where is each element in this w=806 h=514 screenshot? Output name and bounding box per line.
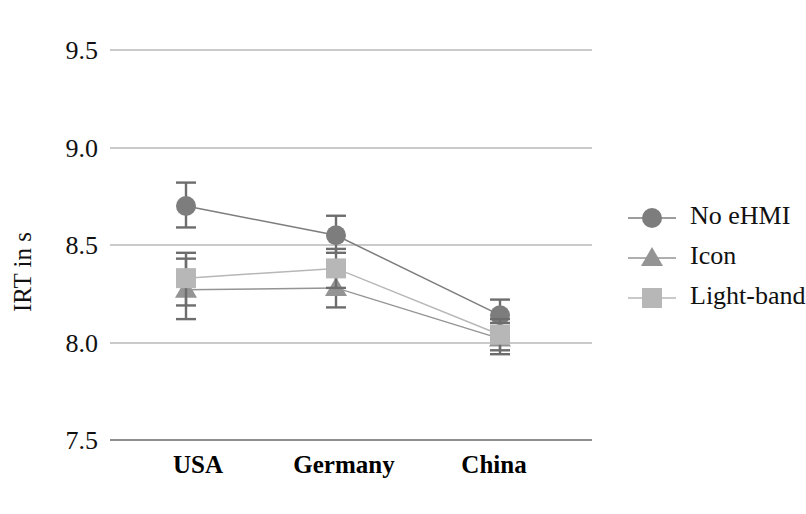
y-tick-label-9-5: 9.5 — [66, 36, 99, 65]
marker-square-light-band — [490, 325, 510, 345]
chart-legend: No eHMIIconLight-band — [628, 201, 806, 310]
legend-marker-triangle — [641, 247, 663, 266]
x-tick-label-china: China — [461, 451, 527, 478]
marker-circle-no-ehmi — [326, 225, 346, 245]
line-chart-svg: 9.5 9.0 8.5 8.0 7.5 IRT in s USA Germany… — [0, 0, 806, 514]
y-tick-label-8-5: 8.5 — [66, 231, 99, 260]
datapoint-no-ehmi-germany — [326, 216, 346, 253]
chart-figure: 9.5 9.0 8.5 8.0 7.5 IRT in s USA Germany… — [0, 0, 806, 514]
marker-square-light-band — [176, 268, 196, 288]
legend-label-icon: Icon — [690, 241, 736, 270]
y-tick-labels: 9.5 9.0 8.5 8.0 7.5 — [66, 36, 99, 455]
legend-marker-square — [642, 288, 662, 308]
x-tick-label-usa: USA — [173, 451, 223, 478]
datapoint-no-ehmi-usa — [176, 183, 196, 228]
legend-label-light-band: Light-band — [690, 281, 806, 310]
y-tick-label-8-0: 8.0 — [66, 329, 99, 358]
legend-entry-light-band[interactable]: Light-band — [628, 281, 806, 310]
legend-label-no-ehmi: No eHMI — [690, 201, 790, 230]
gridlines — [110, 50, 592, 440]
marker-square-light-band — [326, 258, 346, 278]
plot-area — [175, 183, 511, 355]
y-tick-label-7-5: 7.5 — [66, 426, 99, 455]
y-tick-label-9-0: 9.0 — [66, 134, 99, 163]
y-axis-title: IRT in s — [9, 232, 36, 312]
x-tick-label-germany: Germany — [293, 451, 395, 478]
marker-circle-no-ehmi — [176, 196, 196, 216]
legend-entry-icon[interactable]: Icon — [628, 241, 736, 270]
x-tick-labels: USA Germany China — [173, 451, 527, 478]
legend-marker-circle — [642, 208, 662, 228]
datapoint-light-band-germany — [326, 249, 346, 288]
legend-entry-no-ehmi[interactable]: No eHMI — [628, 201, 790, 230]
